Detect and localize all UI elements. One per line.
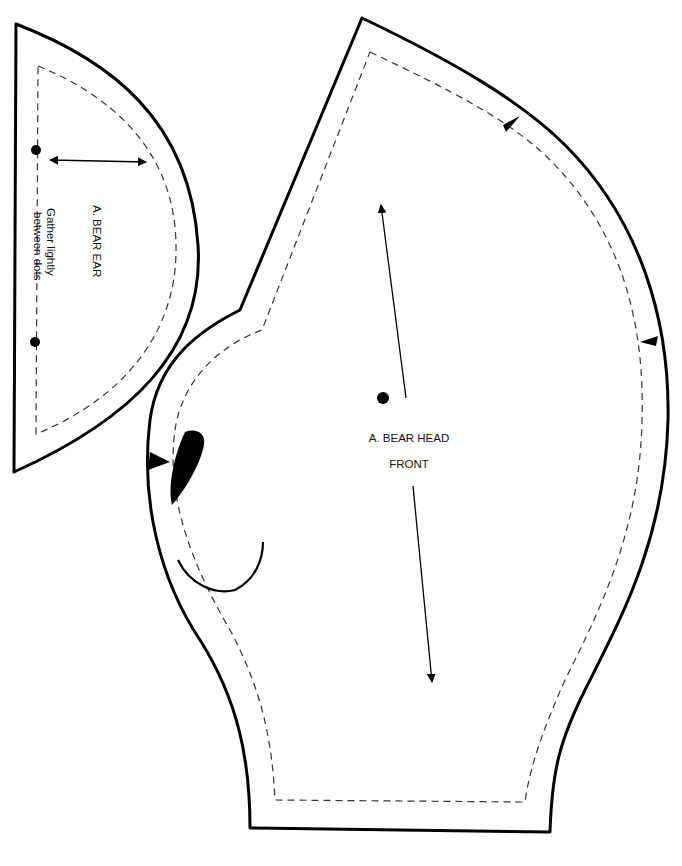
notch-top-icon: [503, 116, 520, 132]
mouth-curve: [178, 542, 263, 591]
ear-note-line1: Gather lightly: [45, 208, 57, 276]
eye-placement-icon: [171, 431, 205, 505]
gather-dot-top: [31, 145, 41, 155]
head-seam-line: [173, 52, 642, 802]
notch-left-icon: [148, 452, 170, 470]
ear-label: A. BEAR EAR: [91, 205, 103, 277]
pattern-sheet: A. BEAR EAR Gather lightly between dots …: [0, 0, 682, 866]
grainline-arrow-down-icon: [413, 486, 432, 682]
placement-dot: [377, 392, 389, 404]
notch-right-icon: [640, 336, 658, 346]
head-label-line1: A. BEAR HEAD: [369, 432, 450, 444]
bear-head-front-piece: A. BEAR HEAD FRONT: [147, 18, 668, 832]
gather-dot-bottom: [30, 337, 40, 347]
head-label-line2: FRONT: [389, 458, 429, 470]
ear-note-line2: between dots: [32, 212, 44, 281]
grainline-arrow-up-icon: [381, 205, 406, 398]
ear-double-arrow-icon: [50, 160, 146, 162]
head-cut-line: [147, 18, 668, 832]
bear-ear-piece: A. BEAR EAR Gather lightly between dots: [14, 24, 198, 472]
